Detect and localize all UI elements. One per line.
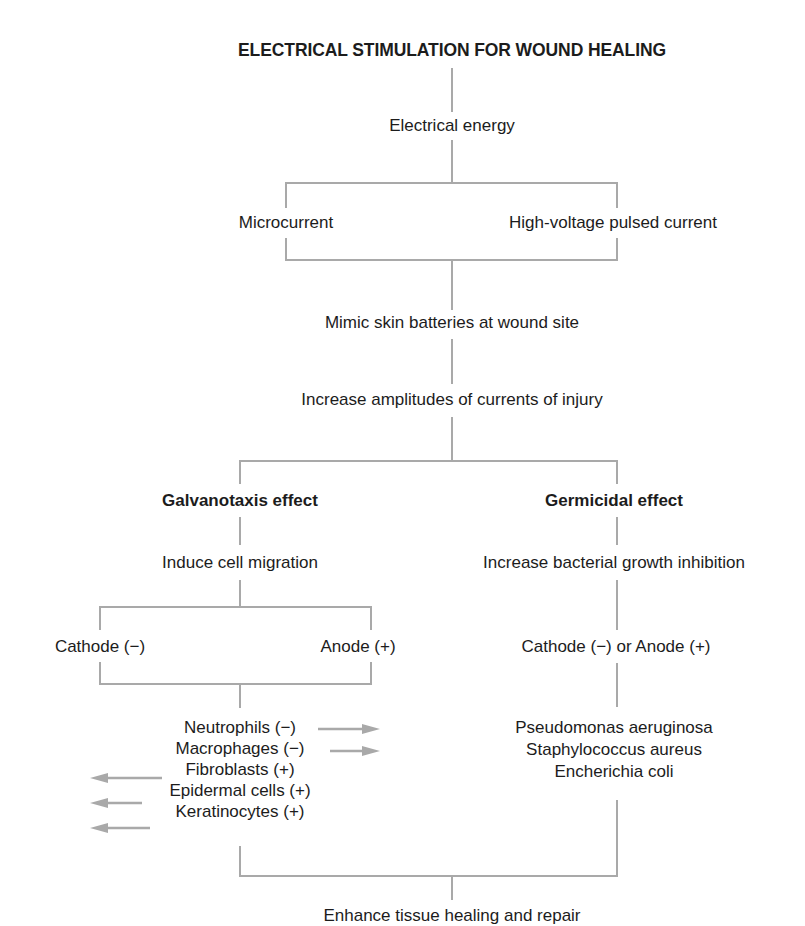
node-high-voltage-pulsed-current: High-voltage pulsed current — [509, 213, 717, 233]
cell-type-list: Neutrophils (−) Macrophages (−) Fibrobla… — [169, 717, 310, 822]
bracket-left-line — [285, 182, 287, 208]
node-mimic-skin-batteries: Mimic skin batteries at wound site — [325, 313, 579, 333]
connector-line — [99, 606, 101, 630]
bacteria-item: Encherichia coli — [515, 761, 713, 783]
bracket-top-line — [285, 182, 618, 184]
arrow-right-icon — [330, 745, 380, 757]
arrow-left-icon — [90, 772, 162, 784]
bacteria-item: Staphylococcus aureus — [515, 739, 713, 761]
cell-item-keratinocytes: Keratinocytes (+) — [169, 801, 310, 822]
connector-line — [451, 876, 453, 900]
node-electrical-energy: Electrical energy — [389, 116, 515, 136]
node-induce-cell-migration: Induce cell migration — [162, 553, 318, 573]
node-outcome: Enhance tissue healing and repair — [323, 906, 580, 926]
connector-line — [616, 800, 618, 877]
node-galvanotaxis-effect: Galvanotaxis effect — [162, 491, 318, 511]
node-increase-bacterial-inhibition: Increase bacterial growth inhibition — [483, 553, 745, 573]
diagram-title: ELECTRICAL STIMULATION FOR WOUND HEALING — [238, 40, 666, 60]
node-anode: Anode (+) — [320, 637, 395, 657]
connector-line — [370, 606, 372, 630]
connector-line — [616, 580, 618, 630]
connector-line — [239, 517, 241, 545]
connector-line — [451, 68, 453, 112]
connector-line — [99, 662, 101, 685]
connector-line — [239, 460, 241, 484]
connector-line — [451, 417, 453, 462]
electrode-bracket-top-line — [99, 606, 372, 608]
connector-line — [616, 460, 618, 484]
connector-line — [239, 684, 241, 708]
connector-line — [616, 517, 618, 545]
cell-item-neutrophils: Neutrophils (−) — [169, 717, 310, 738]
node-microcurrent: Microcurrent — [239, 213, 333, 233]
connector-line — [239, 846, 241, 877]
merge-bracket-line — [239, 875, 618, 877]
node-cathode: Cathode (−) — [55, 637, 145, 657]
bacteria-item: Pseudomonas aeruginosa — [515, 717, 713, 739]
connector-line — [451, 339, 453, 384]
connector-line — [451, 140, 453, 183]
electrode-bracket-bottom-line — [99, 683, 372, 685]
cell-item-epidermal-cells: Epidermal cells (+) — [169, 780, 310, 801]
bracket-right-line — [616, 182, 618, 208]
bracket-left-line — [285, 238, 287, 261]
bacteria-list: Pseudomonas aeruginosa Staphylococcus au… — [515, 717, 713, 783]
arrow-left-icon — [90, 797, 142, 809]
bracket-right-line — [616, 238, 618, 261]
node-germicidal-effect: Germicidal effect — [545, 491, 683, 511]
connector-line — [239, 580, 241, 608]
cell-item-fibroblasts: Fibroblasts (+) — [169, 759, 310, 780]
connector-line — [370, 662, 372, 685]
connector-line — [616, 663, 618, 707]
node-cathode-or-anode: Cathode (−) or Anode (+) — [521, 637, 710, 657]
connector-line — [451, 260, 453, 310]
split-bracket-line — [239, 460, 618, 462]
arrow-left-icon — [90, 822, 150, 834]
cell-item-macrophages: Macrophages (−) — [169, 738, 310, 759]
node-increase-amplitudes: Increase amplitudes of currents of injur… — [301, 390, 602, 410]
arrow-right-icon — [318, 723, 380, 735]
